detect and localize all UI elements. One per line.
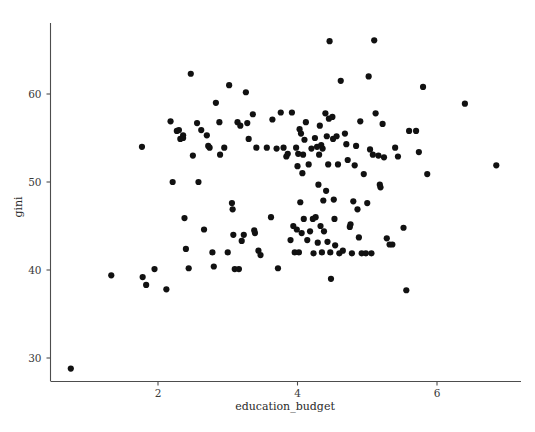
- data-point: [349, 250, 355, 256]
- data-point: [315, 182, 321, 188]
- data-point: [373, 110, 379, 116]
- data-point: [403, 287, 409, 293]
- data-point: [392, 145, 398, 151]
- data-point: [326, 38, 332, 44]
- data-point: [225, 249, 231, 255]
- data-point: [316, 152, 322, 158]
- data-point: [406, 128, 412, 134]
- data-point: [420, 84, 426, 90]
- data-point: [108, 272, 114, 278]
- data-point: [345, 157, 351, 163]
- data-point: [493, 162, 499, 168]
- data-point: [424, 171, 430, 177]
- data-point: [361, 171, 367, 177]
- data-point: [217, 152, 223, 158]
- data-point: [331, 216, 337, 222]
- data-point: [151, 266, 157, 272]
- data-point: [353, 143, 359, 149]
- data-point: [229, 200, 235, 206]
- data-point: [207, 145, 213, 151]
- x-tick-label: 4: [294, 387, 301, 399]
- x-tick-label: 2: [155, 387, 162, 399]
- data-point: [367, 146, 373, 152]
- data-point: [195, 179, 201, 185]
- data-point: [198, 127, 204, 133]
- data-point: [285, 151, 291, 157]
- data-point: [379, 121, 385, 127]
- data-point: [143, 282, 149, 288]
- scatter-plot-canvas: 246 30405060 education_budget gini: [0, 0, 535, 432]
- data-point: [384, 235, 390, 241]
- data-point: [338, 78, 344, 84]
- data-point: [381, 154, 387, 160]
- data-point: [308, 145, 314, 151]
- data-point: [352, 162, 358, 168]
- data-point: [298, 131, 304, 137]
- data-point: [269, 116, 275, 122]
- data-point: [370, 152, 376, 158]
- data-point: [307, 228, 313, 234]
- data-point: [313, 214, 319, 220]
- data-point: [395, 153, 401, 159]
- data-point: [322, 110, 328, 116]
- data-point: [294, 163, 300, 169]
- data-point: [180, 135, 186, 141]
- axis-group: [51, 23, 522, 382]
- data-point: [303, 119, 309, 125]
- data-point: [368, 250, 374, 256]
- data-point: [310, 250, 316, 256]
- data-point: [216, 119, 222, 125]
- data-point: [167, 118, 173, 124]
- data-point: [377, 184, 383, 190]
- data-point: [319, 249, 325, 255]
- data-point: [299, 170, 305, 176]
- data-point: [278, 109, 284, 115]
- data-point: [332, 242, 338, 248]
- data-point: [273, 145, 279, 151]
- y-tick-label: 60: [28, 88, 41, 100]
- data-point: [176, 127, 182, 133]
- data-point: [297, 199, 303, 205]
- data-point: [356, 234, 362, 240]
- data-point: [287, 237, 293, 243]
- data-point: [211, 263, 217, 269]
- data-point: [140, 274, 146, 280]
- data-point: [68, 365, 74, 371]
- data-point: [320, 145, 326, 151]
- data-point: [335, 161, 341, 167]
- data-point: [315, 240, 321, 246]
- data-point: [301, 216, 307, 222]
- data-point: [252, 230, 258, 236]
- data-point: [328, 276, 334, 282]
- data-point: [241, 232, 247, 238]
- data-point: [296, 249, 302, 255]
- data-point: [268, 214, 274, 220]
- data-point: [462, 101, 468, 107]
- data-point: [239, 238, 245, 244]
- data-point: [194, 120, 200, 126]
- data-point: [213, 100, 219, 106]
- data-point: [230, 232, 236, 238]
- y-tick-label: 50: [28, 176, 41, 188]
- data-point: [186, 265, 192, 271]
- data-point: [293, 145, 299, 151]
- data-point: [243, 89, 249, 95]
- data-point: [400, 225, 406, 231]
- y-axis-ticks: 30405060: [28, 88, 50, 364]
- data-point: [190, 153, 196, 159]
- data-point: [246, 136, 252, 142]
- data-point: [289, 109, 295, 115]
- data-point: [139, 144, 145, 150]
- data-point: [317, 223, 323, 229]
- data-point: [366, 73, 372, 79]
- data-point: [170, 179, 176, 185]
- scatter-plot-figure: 246 30405060 education_budget gini: [0, 0, 535, 432]
- data-point: [354, 206, 360, 212]
- data-point: [371, 37, 377, 43]
- data-point: [389, 241, 395, 247]
- data-point: [201, 226, 207, 232]
- data-point: [204, 132, 210, 138]
- data-point: [299, 230, 305, 236]
- data-point: [181, 215, 187, 221]
- data-point: [209, 249, 215, 255]
